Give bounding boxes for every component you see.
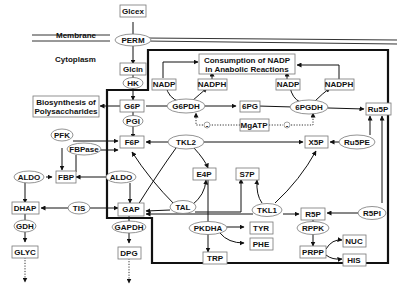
svg-text:TAL: TAL [176,203,191,212]
svg-text:G6P: G6P [124,102,141,111]
node-x5p: X5P [305,136,328,148]
node-fbpase: FBPase [67,143,101,155]
svg-text:R5PI: R5PI [363,209,381,218]
svg-text:6PG: 6PG [242,102,258,111]
node-e4p: E4P [193,168,216,180]
node-nadph-2: NADPH [325,79,354,90]
svg-text:NADP: NADP [153,80,176,89]
svg-text:Glcex: Glcex [122,7,144,16]
svg-text:F6P: F6P [125,138,140,147]
node-tkl1: TKL1 [252,204,282,217]
node-r5p: R5P [301,208,325,220]
svg-text:RPPK: RPPK [302,224,324,233]
svg-text:NADP: NADP [277,80,300,89]
svg-text:in Anabolic Reactions: in Anabolic Reactions [205,65,289,74]
svg-text:PKDHA: PKDHA [194,224,223,233]
svg-text:GAPDH: GAPDH [115,223,144,232]
node-hk: HK [123,78,143,89]
node-glcex: Glcex [120,5,146,17]
node-glcin: Glcin [120,63,146,75]
svg-text:GAP: GAP [122,205,140,214]
node-6pg: 6PG [240,101,260,112]
svg-text:PFK: PFK [54,131,70,140]
svg-text:HIS: HIS [347,256,361,265]
node-6pgdh: 6PGDH [290,100,328,114]
node-pkdha: PKDHA [189,222,227,235]
svg-text:PGI: PGI [126,117,140,126]
svg-text:-: - [286,121,289,130]
svg-text:MgATP: MgATP [241,121,269,130]
node-aldo-right: ALDO [106,171,136,183]
svg-text:PHE: PHE [253,240,270,249]
svg-text:Glcin: Glcin [123,65,143,74]
node-phe: PHE [250,238,273,250]
svg-text:TKL2: TKL2 [176,138,197,147]
node-gap: GAP [118,203,144,216]
svg-text:-: - [206,121,209,130]
cytoplasm-label: Cytoplasm [55,55,96,64]
inhibition-marker-left: - [204,121,210,130]
svg-text:NUC: NUC [345,237,363,246]
node-nadp-2: NADP [276,79,300,90]
svg-text:R5P: R5P [305,210,321,219]
node-fbp: FBP [56,171,76,183]
node-dpg: DPG [118,247,141,259]
svg-text:Consumption of NADP: Consumption of NADP [204,56,291,65]
svg-text:HK: HK [127,79,139,88]
node-glyc: GLYC [12,246,38,258]
svg-text:TKL1: TKL1 [257,206,278,215]
svg-text:6PGDH: 6PGDH [295,103,323,112]
node-pgi: PGI [123,116,143,127]
svg-text:G6PDH: G6PDH [172,102,200,111]
svg-text:TRP: TRP [207,254,224,263]
svg-text:FBP: FBP [58,173,75,182]
node-aldo-left: ALDO [14,171,44,183]
svg-text:ALDO: ALDO [110,173,133,182]
node-perm: PERM [115,34,151,46]
node-nadp-consumption: Consumption of NADP in Anabolic Reaction… [199,54,295,74]
svg-text:Ru5PE: Ru5PE [344,138,370,147]
node-gapdh: GAPDH [112,221,146,233]
node-nuc: NUC [343,235,366,247]
svg-text:PRPP: PRPP [302,248,324,257]
node-g6pdh: G6PDH [167,99,205,113]
node-nadp-1: NADP [152,79,176,90]
metabolic-pathway-diagram: Membrane Cytoplasm [0,0,407,295]
node-rppk: RPPK [297,222,329,235]
node-r5pi: R5PI [358,207,386,220]
node-dhap: DHAP [12,202,39,214]
svg-text:X5P: X5P [308,138,324,147]
svg-text:ALDO: ALDO [18,173,41,182]
svg-text:Ru5P: Ru5P [368,105,389,114]
svg-text:Polysaccharides: Polysaccharides [34,107,98,116]
node-tis: TIS [68,202,90,214]
node-trp: TRP [203,252,227,264]
node-pfk: PFK [51,129,73,141]
svg-text:NADPH: NADPH [325,80,354,89]
node-nadph-1: NADPH [198,79,227,90]
svg-text:GDH: GDH [16,222,34,231]
svg-text:PERM: PERM [121,36,144,45]
node-mgatp: MgATP [240,119,269,131]
svg-text:DPG: DPG [120,249,137,258]
node-ru5p: Ru5P [366,103,391,115]
node-polysaccharides: Biosynthesis of Polysaccharides [33,96,99,117]
membrane-label: Membrane [56,31,97,40]
node-gdh: GDH [14,220,36,232]
svg-text:S7P: S7P [239,170,255,179]
inhibition-marker-right: - [284,121,290,130]
node-his: HIS [343,254,366,266]
node-tal: TAL [170,201,196,214]
svg-text:E4P: E4P [196,170,212,179]
node-f6p: F6P [120,136,144,148]
svg-text:DHAP: DHAP [14,204,37,213]
svg-text:TYR: TYR [253,224,269,233]
node-s7p: S7P [236,168,259,180]
node-g6p: G6P [120,100,144,112]
svg-text:NADPH: NADPH [198,80,227,89]
svg-text:Biosynthesis of: Biosynthesis of [36,98,96,107]
svg-text:FBPase: FBPase [69,145,99,154]
node-tyr: TYR [250,222,273,234]
node-tkl2: TKL2 [168,135,204,149]
svg-text:TIS: TIS [73,204,86,213]
